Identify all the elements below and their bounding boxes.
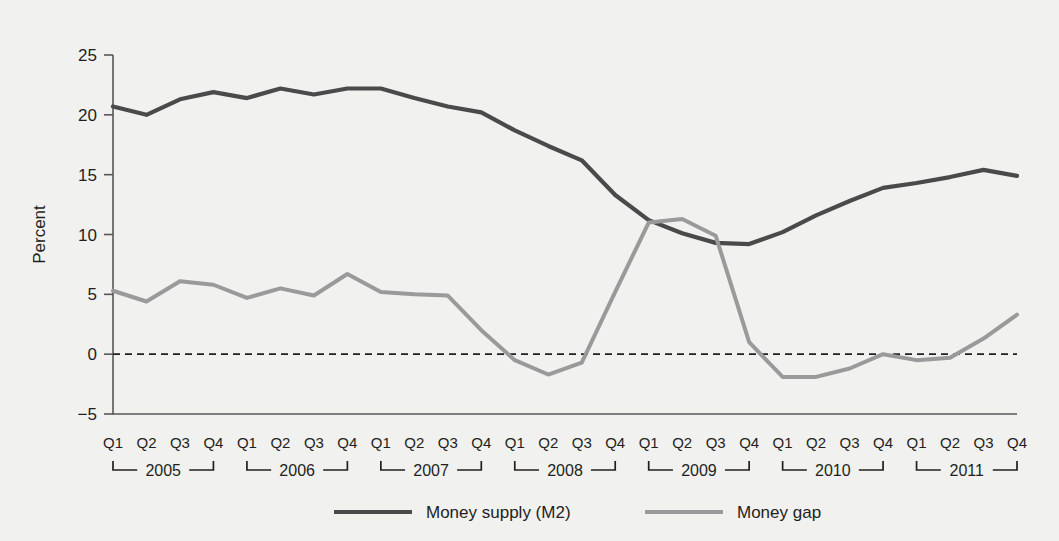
data-series [113,89,1017,377]
x-quarter-label: Q4 [1007,434,1027,451]
year-bracket-right [725,461,749,470]
series-line-money-supply-m2 [113,89,1017,245]
y-tick-label: 15 [78,166,97,185]
x-axis-labels: Q1Q2Q3Q4Q1Q2Q3Q4Q1Q2Q3Q4Q1Q2Q3Q4Q1Q2Q3Q4… [103,434,1027,451]
x-axis-year-brackets: 2005200620072008200920102011 [113,461,1017,479]
year-bracket-right [993,461,1017,470]
x-quarter-label: Q2 [538,434,558,451]
x-year-label: 2010 [815,462,851,479]
line-chart: −50510152025 Percent Q1Q2Q3Q4Q1Q2Q3Q4Q1Q… [0,0,1059,541]
y-axis-label: Percent [30,205,49,264]
y-tick-label: 0 [88,345,97,364]
x-quarter-label: Q3 [840,434,860,451]
y-tick-label: 25 [78,46,97,65]
x-year-label: 2006 [279,462,315,479]
y-tick-label: −5 [78,405,97,424]
x-quarter-label: Q2 [270,434,290,451]
x-quarter-label: Q2 [940,434,960,451]
x-quarter-label: Q4 [739,434,759,451]
x-quarter-label: Q3 [572,434,592,451]
x-quarter-label: Q3 [304,434,324,451]
axis-spines [113,55,1017,414]
x-year-label: 2009 [681,462,717,479]
year-bracket-left [783,461,807,470]
x-quarter-label: Q1 [103,434,123,451]
legend-label-money-gap: Money gap [737,503,821,522]
chart-axes [113,55,1017,414]
x-quarter-label: Q3 [706,434,726,451]
legend-label-money-supply-m2: Money supply (M2) [426,503,571,522]
x-quarter-label: Q3 [170,434,190,451]
y-axis-ticks: −50510152025 [78,46,113,424]
x-quarter-label: Q2 [404,434,424,451]
series-line-money-gap [113,219,1017,377]
year-bracket-right [591,461,615,470]
year-bracket-left [247,461,271,470]
x-quarter-label: Q1 [505,434,525,451]
x-quarter-label: Q3 [974,434,994,451]
year-bracket-left [381,461,405,470]
x-quarter-label: Q1 [237,434,257,451]
x-quarter-label: Q4 [873,434,893,451]
y-tick-label: 5 [88,285,97,304]
year-bracket-left [649,461,673,470]
x-year-label: 2005 [145,462,181,479]
x-quarter-label: Q4 [203,434,223,451]
year-bracket-right [859,461,883,470]
x-quarter-label: Q2 [806,434,826,451]
year-bracket-left [917,461,941,470]
x-quarter-label: Q4 [337,434,357,451]
chart-legend: Money supply (M2)Money gap [334,503,821,522]
x-quarter-label: Q2 [136,434,156,451]
y-axis-title: Percent [30,205,49,264]
y-tick-label: 20 [78,106,97,125]
x-quarter-label: Q1 [773,434,793,451]
x-year-label: 2007 [413,462,449,479]
y-tick-label: 10 [78,226,97,245]
x-quarter-label: Q4 [471,434,491,451]
x-quarter-label: Q3 [438,434,458,451]
x-quarter-label: Q1 [639,434,659,451]
chart-figure: −50510152025 Percent Q1Q2Q3Q4Q1Q2Q3Q4Q1Q… [0,0,1059,541]
x-quarter-label: Q2 [672,434,692,451]
year-bracket-left [113,461,137,470]
x-year-label: 2011 [950,462,985,479]
x-quarter-label: Q4 [605,434,625,451]
x-quarter-label: Q1 [907,434,927,451]
year-bracket-right [457,461,481,470]
x-year-label: 2008 [547,462,583,479]
year-bracket-right [323,461,347,470]
x-quarter-label: Q1 [371,434,391,451]
year-bracket-left [515,461,539,470]
year-bracket-right [189,461,213,470]
